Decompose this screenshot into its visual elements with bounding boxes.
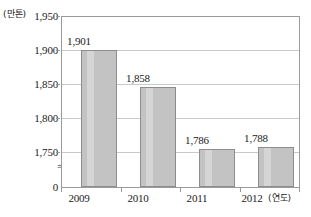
y-tick-label-1950: 1,950 [0, 11, 58, 22]
bar-2011[interactable] [199, 149, 235, 187]
y-tick-mark-1800 [56, 118, 60, 119]
x-axis-unit-label: (연도) [268, 192, 291, 204]
y-axis-tick-labels: 1,950 1,900 1,850 1,800 1,750 0 [0, 0, 58, 217]
y-tick-mark-1850 [56, 84, 60, 85]
bar-value-2011: 1,786 [167, 134, 227, 146]
bar-value-2010: 1,858 [108, 72, 168, 84]
x-label-2010: 2010 [108, 192, 168, 204]
x-label-2009: 2009 [49, 192, 109, 204]
y-tick-label-1850: 1,850 [0, 79, 58, 90]
bar-2012[interactable] [258, 147, 294, 187]
bar-chart: (만톤) 1,950 1,900 1,850 1,800 1,750 0 ≈ 1… [0, 0, 311, 217]
y-tick-mark-1900 [56, 50, 60, 51]
y-tick-label-1750: 1,750 [0, 147, 58, 158]
bar-value-2009: 1,901 [49, 35, 109, 47]
x-label-2011: 2011 [167, 192, 227, 204]
bar-value-2012: 1,788 [226, 132, 286, 144]
x-tick-mark-4 [299, 188, 300, 192]
y-tick-mark-1950 [56, 16, 60, 17]
y-tick-label-1800: 1,800 [0, 113, 58, 124]
bar-2009[interactable] [81, 50, 117, 187]
y-tick-mark-1750 [56, 152, 60, 153]
